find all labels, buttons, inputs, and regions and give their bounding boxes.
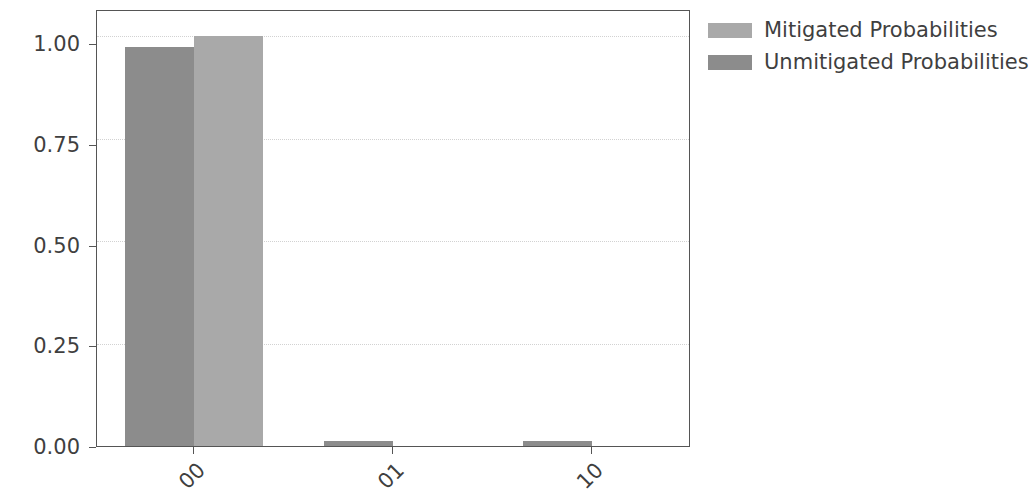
legend-label-unmitigated: Unmitigated Probabilities (764, 50, 1029, 74)
x-tick-mark (392, 447, 393, 454)
bar-unmitigated-10 (523, 441, 592, 446)
legend: Mitigated Probabilities Unmitigated Prob… (702, 10, 1033, 84)
plot-area (96, 10, 690, 447)
x-tick-label-10: 10 (556, 458, 608, 492)
y-tick-mark (89, 145, 96, 146)
bar-unmitigated-01 (324, 441, 393, 446)
x-tick-mark (591, 447, 592, 454)
y-axis-title-wrap: Quasi-probability (34, 10, 70, 447)
legend-swatch-unmitigated (708, 55, 752, 70)
x-tick-label-00: 00 (158, 458, 210, 492)
x-tick-label-01: 01 (357, 458, 409, 492)
legend-entry-mitigated[interactable]: Mitigated Probabilities (708, 16, 1029, 44)
legend-entry-unmitigated[interactable]: Unmitigated Probabilities (708, 48, 1029, 76)
x-tick-mark (193, 447, 194, 454)
y-tick-mark (89, 246, 96, 247)
legend-swatch-mitigated (708, 23, 752, 38)
legend-label-mitigated: Mitigated Probabilities (764, 18, 998, 42)
y-tick-mark (89, 44, 96, 45)
bar-mitigated-00 (194, 36, 263, 446)
y-tick-mark (89, 447, 96, 448)
y-tick-mark (89, 346, 96, 347)
gridline-100 (97, 36, 689, 37)
bar-unmitigated-00 (125, 47, 194, 446)
